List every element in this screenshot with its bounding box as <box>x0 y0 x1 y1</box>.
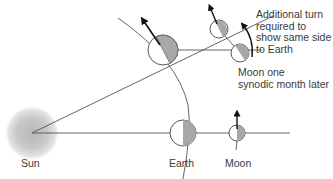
label-additional-turn: Additional turn required to show same si… <box>256 9 331 55</box>
label-sun: Sun <box>21 158 40 170</box>
label-moon: Moon <box>225 158 251 170</box>
moon-later-rotated <box>210 20 228 38</box>
moon-later <box>231 44 249 62</box>
label-additional-turn-line1: Additional turn <box>256 9 331 21</box>
label-additional-turn-line4: to Earth <box>256 44 331 56</box>
label-earth: Earth <box>169 158 194 170</box>
label-additional-turn-line3: show same side <box>256 32 331 44</box>
earth-initial <box>170 120 196 146</box>
earth-later <box>148 35 178 65</box>
label-moon-later: Moon one synodic month later <box>238 67 329 90</box>
label-moon-later-line1: Moon one <box>238 67 329 79</box>
label-moon-later-line2: synodic month later <box>238 79 329 91</box>
moon-orbit-tick <box>236 141 237 150</box>
